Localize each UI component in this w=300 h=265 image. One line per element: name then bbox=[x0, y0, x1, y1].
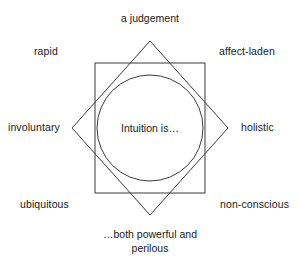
attribute-label-affect-laden: affect-laden bbox=[219, 45, 275, 58]
attribute-label-non-conscious: non-conscious bbox=[220, 198, 289, 211]
powerful-perilous-line-2: perilous bbox=[0, 241, 300, 255]
attribute-label-rapid: rapid bbox=[34, 45, 58, 58]
attribute-label-powerful-and-perilous: …both powerful and perilous bbox=[0, 227, 300, 255]
powerful-perilous-line-1: …both powerful and bbox=[0, 227, 300, 241]
core-label-intuition-is: Intuition is… bbox=[0, 122, 300, 135]
attribute-label-a-judgement: a judgement bbox=[0, 12, 300, 25]
attribute-label-ubiquitous: ubiquitous bbox=[20, 198, 69, 211]
intuition-star-diagram: a judgement rapid affect-laden involunta… bbox=[0, 0, 300, 265]
